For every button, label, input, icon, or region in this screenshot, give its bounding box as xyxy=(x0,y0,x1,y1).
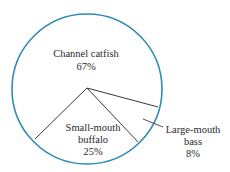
label-large-mouth-bass-line1: Large-mouth xyxy=(166,124,221,135)
label-channel-catfish: Channel catfish xyxy=(53,48,119,59)
value-large-mouth-bass: 8% xyxy=(186,148,200,159)
label-small-mouth-buffalo-line1: Small-mouth xyxy=(66,122,122,133)
label-large-mouth-bass-line2: bass xyxy=(184,136,202,147)
value-small-mouth-buffalo: 25% xyxy=(83,146,103,157)
value-channel-catfish: 67% xyxy=(76,61,96,72)
label-small-mouth-buffalo-line2: buffalo xyxy=(78,134,108,145)
pie-chart: Channel catfish 67% Small-mouth buffalo … xyxy=(0,0,230,172)
